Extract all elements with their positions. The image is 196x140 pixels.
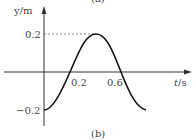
x-axis-label: t/s — [174, 77, 187, 88]
x-tick-0.2: 0.2 — [71, 77, 87, 88]
x-axis-arrow-icon — [184, 70, 192, 75]
figure-caption: (b) — [91, 128, 105, 139]
top-caption: (a) — [91, 0, 105, 4]
y-axis-arrow-icon — [42, 6, 47, 14]
y-tick-neg-0.2: −0.2 — [16, 105, 40, 116]
wave-chart: (a) y/m t/s 0.2 −0.2 0.2 0.6 (b) — [0, 0, 196, 140]
x-tick-0.6: 0.6 — [107, 77, 123, 88]
y-tick-0.2: 0.2 — [25, 29, 41, 40]
y-axis-label: y/m — [13, 5, 33, 16]
